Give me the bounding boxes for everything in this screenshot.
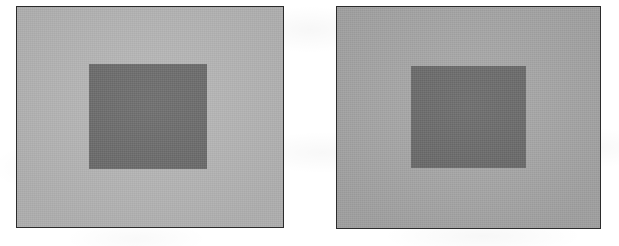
right-panel bbox=[336, 6, 601, 229]
left-panel bbox=[16, 6, 284, 228]
right-panel-center-square bbox=[411, 66, 526, 168]
figure-root bbox=[0, 0, 619, 246]
left-panel-center-square bbox=[89, 64, 207, 169]
